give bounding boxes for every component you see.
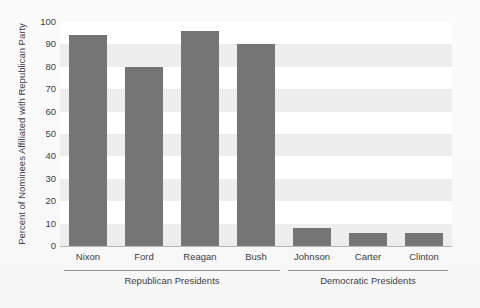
bar [69, 35, 107, 246]
bar [349, 233, 387, 246]
x-axis-category-label: Reagan [172, 250, 228, 264]
y-axis-tick-label: 50 [32, 129, 56, 139]
y-axis-tick-label: 60 [32, 107, 56, 117]
x-axis-category-label: Johnson [284, 250, 340, 264]
group-rule [64, 270, 280, 271]
x-axis-category-label: Nixon [60, 250, 116, 264]
bar [405, 233, 443, 246]
x-axis-category-label: Bush [228, 250, 284, 264]
x-axis-category-label: Carter [340, 250, 396, 264]
y-axis-tick-label: 100 [32, 17, 56, 27]
bar [125, 67, 163, 246]
chart-figure: Percent of Nominees Affiliated with Repu… [0, 0, 480, 308]
group-label: Republican Presidents [64, 274, 280, 288]
y-axis-tick-label: 70 [32, 84, 56, 94]
y-axis-tick-label: 90 [32, 39, 56, 49]
y-axis-tick-label: 0 [32, 241, 56, 251]
bar [293, 228, 331, 246]
bar [237, 44, 275, 246]
y-axis-tick-labels: 0102030405060708090100 [32, 0, 56, 308]
y-axis-title-text: Percent of Nominees Affiliated with Repu… [14, 16, 30, 252]
bar [181, 31, 219, 246]
group-label: Democratic Presidents [288, 274, 448, 288]
y-axis-title: Percent of Nominees Affiliated with Repu… [14, 16, 30, 252]
x-axis-category-label: Ford [116, 250, 172, 264]
plot-area [60, 22, 452, 246]
y-axis-tick-label: 80 [32, 62, 56, 72]
y-axis-tick-label: 40 [32, 151, 56, 161]
group-rule [288, 270, 448, 271]
y-axis-tick-label: 20 [32, 196, 56, 206]
y-axis-tick-label: 30 [32, 174, 56, 184]
x-axis-category-label: Clinton [396, 250, 452, 264]
x-axis-baseline [60, 246, 452, 247]
x-axis-category-labels: NixonFordReaganBushJohnsonCarterClinton [60, 250, 452, 266]
bar-series [60, 22, 452, 246]
y-axis-tick-label: 10 [32, 219, 56, 229]
